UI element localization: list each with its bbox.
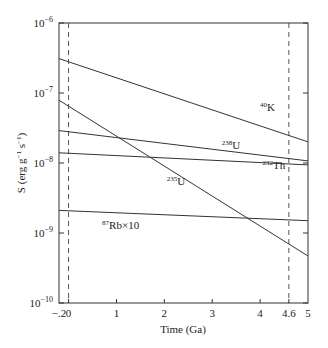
y-tick-label: 10−10 [29, 295, 53, 309]
x-axis-label: Time (Ga) [160, 323, 206, 336]
y-tick-label: 10−6 [33, 15, 53, 29]
x-axis-ticks: −.2012344.65 [52, 299, 311, 319]
x-tick-label: 1 [114, 307, 120, 319]
x-tick-label: 5 [305, 307, 311, 319]
y-axis-label: S (erg g−1 s−1) [15, 133, 28, 194]
series-label: 87Rb×10 [102, 219, 140, 231]
x-tick-label: 2 [162, 307, 168, 319]
x-tick-label: 4 [257, 307, 263, 319]
series-line-238U [59, 131, 308, 161]
series-labels: 40K238U232Th235U87Rb×10 [102, 101, 286, 231]
series-label: 40K [260, 101, 275, 113]
y-tick-label: 10−7 [33, 85, 53, 99]
x-tick-label: 3 [209, 307, 215, 319]
x-tick-label: −.2 [52, 307, 66, 319]
y-tick-label: 10−8 [33, 155, 53, 169]
series-label: 232Th [263, 159, 286, 171]
y-tick-label: 10−9 [33, 225, 53, 239]
data-series [59, 59, 308, 256]
heat-production-chart: −.2012344.65 10−610−710−810−910−10 40K23… [0, 0, 328, 348]
reference-lines [69, 23, 289, 303]
series-label: 238U [222, 139, 241, 151]
x-tick-label: 4.6 [282, 307, 296, 319]
x-tick-label: 0 [66, 307, 72, 319]
series-line-87Rb10 [59, 210, 308, 220]
series-label: 235U [167, 175, 186, 187]
